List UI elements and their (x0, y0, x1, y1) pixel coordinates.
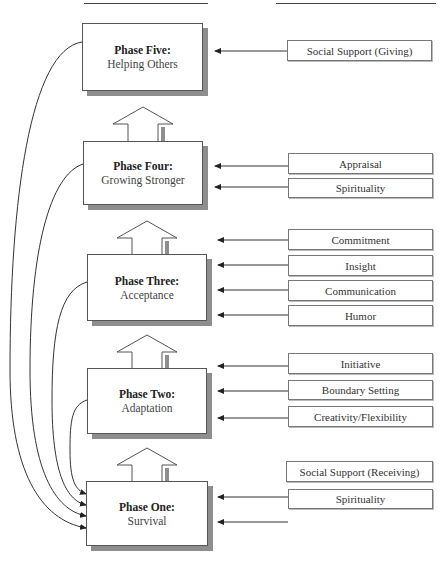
up-arrow-one-to-two (117, 448, 177, 481)
curve-two-to-one (70, 400, 87, 494)
curve-four-to-one (30, 164, 86, 516)
factor-humor: Humor (288, 305, 433, 326)
factor-creativity-flexibility: Creativity/Flexibility (288, 406, 433, 427)
factor-spirituality: Spirituality (288, 178, 433, 198)
factor-initiative: Initiative (288, 353, 433, 374)
phase-title: Phase Three: (115, 274, 179, 288)
phase-three-box: Phase Three: Acceptance (87, 254, 207, 321)
phase-two-box: Phase Two: Adaptation (87, 368, 207, 434)
factor-appraisal: Appraisal (288, 153, 433, 174)
factor-social-support-receiving: Social Support (Receiving) (286, 461, 433, 482)
up-arrow-two-to-three (117, 335, 177, 368)
phase-title: Phase Five: (114, 43, 171, 57)
factor-spirituality-one: Spirituality (288, 489, 433, 509)
phase-title: Phase Two: (119, 387, 175, 401)
phase-four-box: Phase Four: Growing Stronger (83, 141, 203, 205)
phase-subtitle: Survival (128, 514, 167, 528)
curve-five-to-one (10, 42, 86, 528)
factor-insight: Insight (288, 255, 433, 276)
phase-one-box: Phase One: Survival (86, 481, 208, 546)
phase-subtitle: Acceptance (120, 288, 174, 302)
factor-boundary-setting: Boundary Setting (288, 380, 433, 400)
factor-communication: Communication (288, 280, 433, 301)
factor-commitment: Commitment (288, 229, 433, 250)
phase-subtitle: Growing Stronger (101, 173, 184, 187)
phase-title: Phase Four: (113, 159, 173, 173)
phase-title: Phase One: (119, 500, 175, 514)
curve-three-to-one (52, 282, 87, 505)
phase-five-box: Phase Five: Helping Others (82, 23, 203, 91)
phase-subtitle: Helping Others (107, 57, 178, 71)
phase-subtitle: Adaptation (121, 401, 172, 415)
up-arrow-four-to-five (113, 107, 173, 141)
up-arrow-three-to-four (117, 221, 177, 254)
factor-social-support-giving: Social Support (Giving) (287, 40, 432, 61)
